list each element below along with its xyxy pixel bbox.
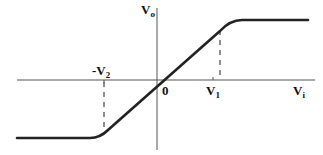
- y-axis-label: Vo: [141, 3, 155, 19]
- v1-label: V1: [206, 84, 220, 100]
- transfer-characteristic-diagram: [0, 0, 323, 155]
- origin-label: 0: [162, 84, 169, 97]
- neg-v2-label: -V2: [92, 64, 110, 80]
- transfer-curve: [17, 20, 308, 138]
- x-axis-label: Vi: [293, 84, 305, 100]
